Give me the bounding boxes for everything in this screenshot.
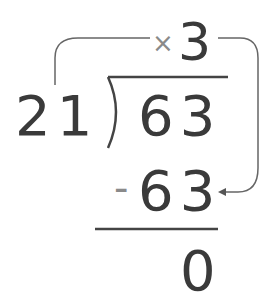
division-diagram-lines: [0, 0, 269, 302]
remainder: 0: [180, 243, 222, 299]
division-bracket: [108, 77, 116, 148]
dividend: 63: [138, 88, 221, 144]
quotient: 3: [178, 16, 217, 68]
divisor: 21: [15, 88, 98, 144]
bracket-right-arrow: [218, 38, 258, 192]
product: 63: [138, 163, 221, 219]
multiply-operator: ×: [152, 30, 174, 56]
subtract-operator: -: [114, 168, 128, 208]
